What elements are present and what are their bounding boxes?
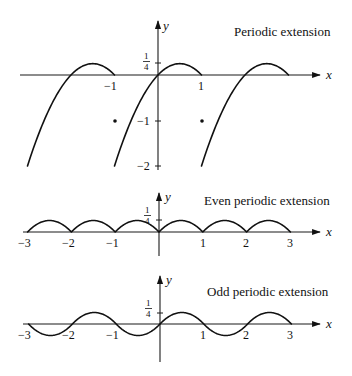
x-tick-label: 1	[200, 328, 206, 342]
panel-title: Odd periodic extension	[207, 284, 329, 299]
x-tick-label: −1	[106, 236, 119, 250]
x-axis-label: x	[325, 67, 332, 82]
x-tick-label: 2	[243, 236, 249, 250]
panel-title: Even periodic extension	[204, 193, 330, 208]
x-tick-label: 3	[287, 328, 293, 342]
jump-midpoint-dot	[113, 119, 117, 123]
y-tick-label-quarter: 1 4	[143, 51, 150, 72]
y-tick-label: −2	[137, 159, 150, 173]
figure-canvas: Periodic extension x y 1 4 −1 −2 −1 1 Ev…	[0, 0, 352, 376]
x-tick-label: −1	[104, 79, 117, 93]
y-axis-label: y	[164, 272, 172, 287]
svg-text:1: 1	[144, 51, 149, 61]
y-axis-label: y	[161, 18, 169, 33]
x-tick-label: −2	[62, 236, 75, 250]
x-tick-label: −3	[18, 328, 31, 342]
y-tick-label-quarter: 1 4	[145, 298, 152, 319]
curve-branch	[28, 64, 115, 166]
x-axis-label: x	[325, 316, 332, 331]
y-axis-label: y	[163, 189, 171, 204]
x-tick-label: 3	[287, 236, 293, 250]
x-axis-label: x	[325, 224, 332, 239]
panel-odd: Odd periodic extension x y 1 4 −3 −2 −1 …	[18, 272, 332, 362]
svg-text:1: 1	[145, 205, 150, 215]
x-tick-label: 1	[200, 236, 206, 250]
x-tick-label: 2	[243, 328, 249, 342]
jump-midpoint-dot	[200, 119, 204, 123]
panel-even: Even periodic extension x y 1 4 −3 −2 −1…	[18, 189, 332, 256]
x-tick-label: −3	[18, 236, 31, 250]
svg-text:1: 1	[146, 298, 151, 308]
svg-text:4: 4	[146, 309, 151, 319]
panel-title: Periodic extension	[234, 24, 331, 39]
panel-periodic: Periodic extension x y 1 4 −1 −2 −1 1	[20, 18, 332, 173]
x-tick-label: 1	[198, 79, 204, 93]
x-tick-label: −2	[62, 328, 75, 342]
y-tick-label: −1	[137, 114, 150, 128]
x-tick-label: −1	[106, 328, 119, 342]
curve-branch	[202, 64, 289, 166]
svg-text:4: 4	[144, 62, 149, 72]
